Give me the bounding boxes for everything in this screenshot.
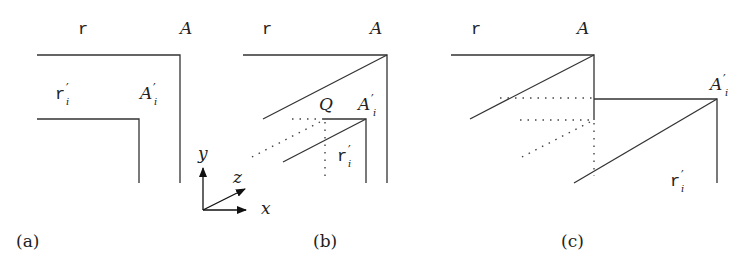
axis-label-y: y <box>197 143 208 163</box>
label-r: r <box>78 20 88 39</box>
svg-text:′: ′ <box>723 73 726 87</box>
svg-text:i: i <box>66 96 69 107</box>
label-Q: Q <box>319 94 333 114</box>
svg-text:′: ′ <box>66 82 69 96</box>
shifted-diagonal <box>574 99 717 183</box>
svg-text:i: i <box>681 183 684 194</box>
label-r-prime-i: r ′ i <box>670 169 684 194</box>
svg-text:r: r <box>55 85 65 104</box>
label-A: A <box>575 18 589 38</box>
svg-text:A: A <box>356 94 370 114</box>
label-r: r <box>262 20 272 39</box>
svg-text:′: ′ <box>348 144 351 158</box>
svg-text:A: A <box>708 74 722 94</box>
axis-label-z: z <box>232 167 243 187</box>
figure-diagram: r A r ′ i A ′ i (a) Q r A A ′ i r <box>0 0 756 278</box>
svg-text:i: i <box>348 158 351 169</box>
svg-text:′: ′ <box>371 93 374 107</box>
svg-text:′: ′ <box>153 82 156 96</box>
outer-diagonal <box>470 55 594 119</box>
label-A-prime-i: A ′ i <box>138 82 157 107</box>
svg-text:i: i <box>373 107 376 118</box>
panel-a: r A r ′ i A ′ i (a) <box>16 18 192 251</box>
panel-b: Q r A A ′ i r ′ i y z x (b) <box>197 18 387 251</box>
z-axis-arrow-icon <box>203 189 245 210</box>
dotted-diagonal <box>518 122 590 159</box>
svg-text:r: r <box>337 147 347 166</box>
outer-corner-r <box>451 55 594 120</box>
label-A-prime-i: A ′ i <box>708 73 728 98</box>
panel-c: r A A ′ i r ′ i (c) <box>451 18 728 251</box>
label-r-prime-i: r ′ i <box>55 82 69 107</box>
inner-corner-r-prime <box>37 119 139 183</box>
dotted-diagonal <box>248 122 320 159</box>
axis-label-x: x <box>261 198 271 218</box>
caption-a: (a) <box>16 231 39 251</box>
label-r-prime-i: r ′ i <box>337 144 351 169</box>
svg-text:A: A <box>138 83 152 103</box>
svg-text:i: i <box>154 96 157 107</box>
svg-text:′: ′ <box>681 169 684 183</box>
caption-c: (c) <box>561 231 584 251</box>
label-r: r <box>471 20 481 39</box>
label-A-prime-i: A ′ i <box>356 93 376 118</box>
label-A: A <box>368 18 382 38</box>
label-A: A <box>178 18 192 38</box>
svg-text:i: i <box>725 87 728 98</box>
caption-b: (b) <box>313 231 337 251</box>
shifted-corner-r-prime <box>594 99 717 183</box>
axes-xyz: y z x <box>197 143 271 218</box>
inner-diagonal <box>283 119 366 162</box>
svg-text:r: r <box>670 172 680 191</box>
